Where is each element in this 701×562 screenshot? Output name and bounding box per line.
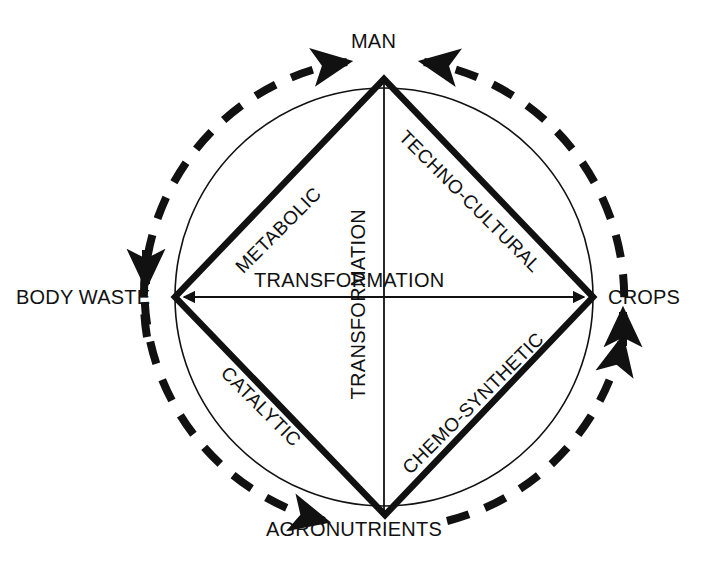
node-label-crops: CROPS xyxy=(608,286,680,309)
node-label-body-waste: BODY WASTE xyxy=(16,286,150,309)
node-label-agronutrients: AGRONUTRIENTS xyxy=(266,518,442,541)
node-label-man: MAN xyxy=(351,30,396,53)
diagram-canvas: MAN CROPS AGRONUTRIENTS BODY WASTE METAB… xyxy=(0,0,701,562)
axis-label-transformation-vertical: TRANSFORMATION xyxy=(347,209,370,400)
flow-arc-lower-right xyxy=(447,340,622,521)
